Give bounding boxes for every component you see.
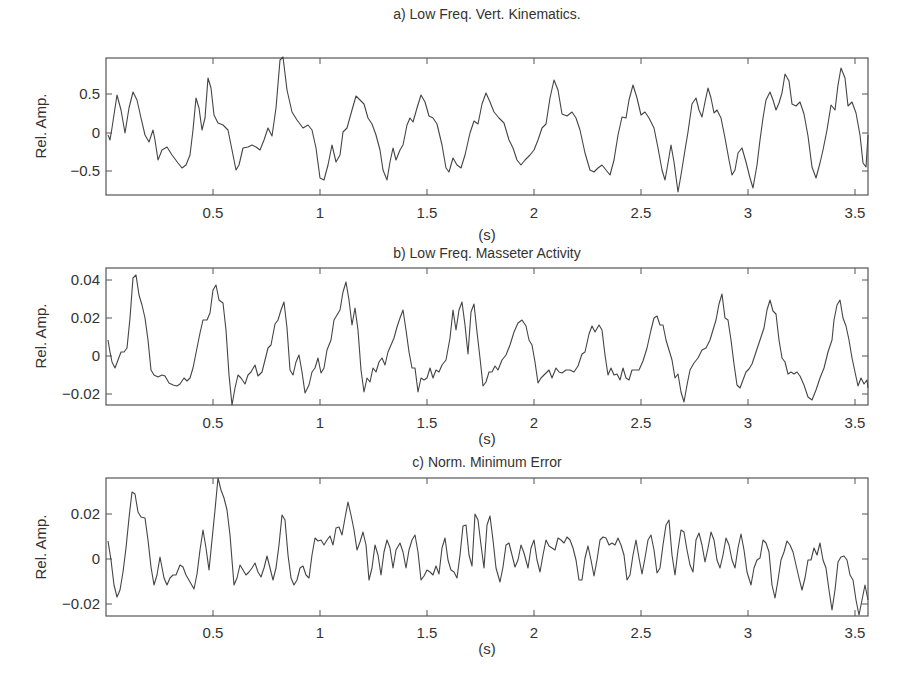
x-tick-label: 0.5 (203, 624, 224, 641)
panel-b-ylabel: Rel. Amp. (32, 303, 49, 368)
x-tick-label: 2 (530, 624, 538, 641)
y-tick-label: 0.5 (79, 85, 100, 102)
plot-frame (106, 268, 868, 405)
x-tick-label: 1.5 (417, 204, 438, 221)
x-tick-label: 2.5 (631, 624, 652, 641)
panel-a: a) Low Freq. Vert. Kinematics. (s) Rel. … (32, 6, 868, 243)
x-tick-label: 2 (530, 204, 538, 221)
x-tick-label: 3 (744, 624, 752, 641)
x-tick-label: 1 (316, 414, 324, 431)
y-tick-label: −0.02 (62, 595, 100, 612)
x-tick-label: 1 (316, 204, 324, 221)
x-tick-label: 3 (744, 414, 752, 431)
x-tick-label: 3.5 (845, 624, 866, 641)
x-tick-label: 3 (744, 204, 752, 221)
y-tick-label: −0.5 (70, 162, 100, 179)
x-tick-label: 3.5 (845, 204, 866, 221)
x-tick-label: 2.5 (631, 204, 652, 221)
x-tick-label: 1.5 (417, 414, 438, 431)
y-tick-label: 0 (92, 550, 100, 567)
panel-c-ylabel: Rel. Amp. (32, 514, 49, 579)
panel-c-title: c) Norm. Minimum Error (412, 454, 562, 470)
signal-trace (108, 478, 868, 615)
plot-frame (106, 478, 868, 616)
y-tick-label: 0 (92, 124, 100, 141)
x-tick-label: 1.5 (417, 624, 438, 641)
panel-a-xlabel: (s) (478, 226, 496, 243)
panel-a-ylabel: Rel. Amp. (32, 93, 49, 158)
y-tick-label: 0 (92, 347, 100, 364)
y-tick-label: 0.02 (71, 505, 100, 522)
figure: a) Low Freq. Vert. Kinematics. (s) Rel. … (0, 0, 903, 690)
panel-a-title: a) Low Freq. Vert. Kinematics. (393, 6, 581, 22)
y-tick-label: 0.02 (71, 309, 100, 326)
x-tick-label: 1 (316, 624, 324, 641)
panel-c: c) Norm. Minimum Error (s) Rel. Amp. 0.5… (32, 454, 868, 657)
signal-trace (108, 275, 868, 405)
x-tick-label: 0.5 (203, 204, 224, 221)
panel-b: b) Low Freq. Masseter Activity (s) Rel. … (32, 245, 868, 447)
panel-c-xlabel: (s) (478, 640, 496, 657)
x-tick-label: 2 (530, 414, 538, 431)
y-tick-label: 0.04 (71, 271, 100, 288)
signal-trace (108, 57, 868, 192)
x-tick-label: 2.5 (631, 414, 652, 431)
plot-frame (106, 58, 868, 195)
y-tick-label: −0.02 (62, 385, 100, 402)
panel-b-title: b) Low Freq. Masseter Activity (393, 245, 581, 261)
panel-b-xlabel: (s) (478, 430, 496, 447)
x-tick-label: 0.5 (203, 414, 224, 431)
x-tick-label: 3.5 (845, 414, 866, 431)
